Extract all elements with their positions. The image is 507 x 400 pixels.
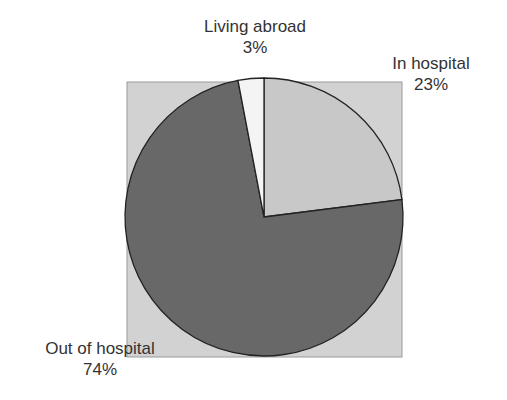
label-living-abroad: Living abroad 3% (170, 16, 340, 58)
label-out-of-hospital-pct: 74% (20, 359, 180, 380)
label-in-hospital-name: In hospital (370, 53, 492, 74)
pie-slices (125, 78, 403, 356)
label-in-hospital: In hospital 23% (370, 53, 492, 95)
label-out-of-hospital-name: Out of hospital (20, 338, 180, 359)
label-out-of-hospital: Out of hospital 74% (20, 338, 180, 380)
label-living-abroad-pct: 3% (170, 37, 340, 58)
label-in-hospital-pct: 23% (370, 74, 492, 95)
label-living-abroad-name: Living abroad (170, 16, 340, 37)
